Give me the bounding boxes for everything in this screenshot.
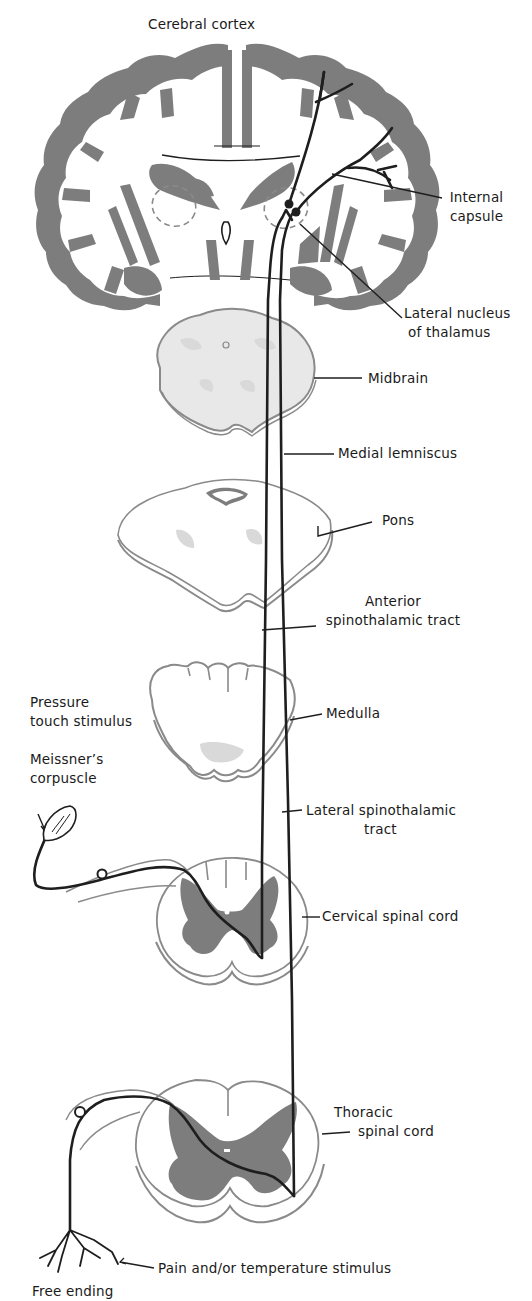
longitudinal-fissure-walls (222, 50, 252, 148)
label-pressure-touch-stimulus: Pressure touch stimulus (30, 693, 132, 731)
label-thoracic-line1: Thoracic (334, 1103, 434, 1122)
left-insula (108, 184, 160, 266)
hypothalamus-gray (206, 240, 254, 280)
right-temporal-gray (290, 266, 332, 295)
label-meissner-line2: corpuscle (30, 769, 104, 788)
label-thoracic-spinal-cord: Thoracic spinal cord (334, 1103, 434, 1141)
label-meissner-line1: Meissner’s (30, 750, 104, 769)
pons-section (118, 480, 332, 612)
cervical-cord-section (156, 858, 308, 984)
right-insula (298, 184, 358, 266)
label-free-ending: Free ending (32, 1282, 113, 1301)
left-temporal-gray (124, 266, 162, 295)
label-lateral-nucleus-thalamus: Lateral nucleus of thalamus (404, 304, 510, 342)
leader-lateral-st (282, 810, 302, 812)
label-thalamus-line1: Lateral nucleus (404, 304, 510, 323)
label-cervical-spinal-cord: Cervical spinal cord (322, 907, 459, 926)
label-internal-capsule-line1: Internal (448, 188, 503, 207)
leader-medulla (290, 714, 322, 720)
label-internal-capsule: Internal capsule (448, 188, 503, 226)
label-thoracic-line2: spinal cord (334, 1122, 434, 1141)
label-pons: Pons (382, 511, 414, 530)
label-pain-temperature-stimulus: Pain and/or temperature stimulus (158, 1259, 391, 1278)
label-lateral-line1: Lateral spinothalamic (306, 801, 456, 820)
label-anterior-spinothalamic-tract: Anterior spinothalamic tract (318, 592, 468, 630)
label-pressure-line2: touch stimulus (30, 712, 132, 731)
label-medial-lemniscus: Medial lemniscus (338, 444, 457, 463)
corpus-callosum (162, 155, 300, 160)
free-ending-branches (40, 1230, 118, 1272)
midbrain-section (157, 309, 316, 436)
cerebrum-section (35, 44, 440, 311)
label-anterior-line1: Anterior (318, 592, 468, 611)
label-lateral-line2: tract (306, 820, 456, 839)
label-lateral-spinothalamic-tract: Lateral spinothalamic tract (306, 801, 456, 839)
label-pressure-line1: Pressure (30, 693, 132, 712)
label-cerebral-cortex: Cerebral cortex (148, 15, 255, 34)
lateral-ventricles (149, 162, 295, 210)
medulla-section (150, 662, 295, 781)
label-anterior-line2: spinothalamic tract (318, 611, 468, 630)
label-thalamus-line2: of thalamus (404, 323, 510, 342)
label-midbrain: Midbrain (368, 369, 428, 388)
label-medulla: Medulla (326, 704, 380, 723)
label-meissners-corpuscle: Meissner’s corpuscle (30, 750, 104, 788)
leader-anterior-st (262, 626, 316, 630)
label-internal-capsule-line2: capsule (448, 207, 503, 226)
